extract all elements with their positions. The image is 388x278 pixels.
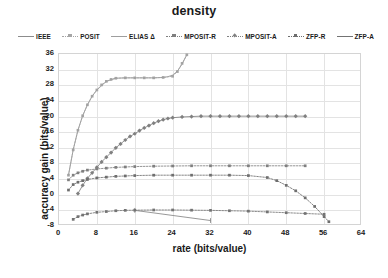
- data-point-marker: [86, 178, 89, 181]
- data-point-marker: [67, 189, 70, 192]
- data-point-marker: [323, 213, 326, 216]
- x-tick-label: 40: [232, 228, 262, 237]
- data-point-marker: [294, 114, 298, 118]
- y-tick-label: 28: [2, 79, 54, 88]
- x-tick-label: 0: [43, 228, 73, 237]
- legend-item-elias[interactable]: Elias Δ: [111, 33, 155, 40]
- series-zfp-r: [67, 174, 330, 223]
- data-point-marker: [209, 164, 212, 167]
- legend-item-label: MPosit-R: [184, 33, 216, 40]
- legend-swatch-icon: [337, 33, 353, 40]
- data-point-marker: [171, 174, 174, 177]
- data-point-marker: [323, 215, 326, 218]
- legend-swatch-icon: [18, 33, 34, 40]
- data-point-marker: [96, 211, 99, 214]
- data-point-marker: [313, 205, 316, 208]
- data-point-marker: [275, 114, 279, 118]
- data-point-marker: [209, 209, 212, 212]
- x-tick-label: 32: [195, 228, 225, 237]
- data-point-marker: [190, 174, 193, 177]
- data-point-marker: [152, 209, 155, 212]
- data-point-marker: [77, 181, 80, 184]
- data-point-marker: [147, 123, 151, 127]
- legend-item-ieee[interactable]: IEEE: [18, 33, 51, 40]
- data-point-marker: [265, 114, 269, 118]
- data-point-marker: [218, 114, 222, 118]
- data-point-marker: [275, 179, 278, 182]
- data-point-marker: [114, 175, 117, 178]
- data-point-marker: [105, 167, 108, 170]
- data-point-marker: [152, 121, 156, 125]
- legend-item-posit[interactable]: Posit: [62, 33, 100, 40]
- data-point-marker: [266, 176, 269, 179]
- data-point-marker: [237, 114, 241, 118]
- series-line: [68, 55, 186, 175]
- series-mposit-a: [76, 114, 307, 196]
- data-point-marker: [284, 114, 288, 118]
- data-point-marker: [161, 118, 165, 122]
- data-point-marker: [77, 171, 80, 174]
- data-point-marker: [304, 164, 307, 167]
- y-tick-label: 36: [2, 48, 54, 57]
- data-point-marker: [133, 209, 136, 212]
- series-line: [68, 175, 328, 222]
- y-tick-label: 0: [2, 189, 54, 198]
- data-point-marker: [81, 214, 84, 217]
- data-point-marker: [96, 177, 99, 180]
- plot-area: [58, 53, 361, 225]
- data-point-marker: [72, 174, 75, 177]
- data-point-marker: [156, 119, 160, 123]
- x-tick-label: 64: [346, 228, 376, 237]
- legend-item-mposit-a[interactable]: MPosit-A: [227, 33, 277, 40]
- series-elias: [68, 55, 186, 175]
- data-point-marker: [285, 164, 288, 167]
- data-point-marker: [189, 114, 193, 118]
- y-tick-label: 20: [2, 111, 54, 120]
- data-point-marker: [76, 191, 80, 195]
- legend-item-mposit-r[interactable]: MPosit-R: [166, 33, 216, 40]
- data-point-marker: [77, 215, 80, 218]
- series-line: [135, 210, 211, 220]
- data-point-marker: [285, 184, 288, 187]
- data-point-marker: [166, 116, 170, 120]
- data-point-marker: [67, 179, 70, 182]
- data-point-marker: [124, 209, 127, 212]
- series-mposit-r: [67, 164, 306, 181]
- y-tick-label: -4: [2, 204, 54, 213]
- data-point-marker: [304, 212, 307, 215]
- data-point-marker: [171, 116, 175, 120]
- data-point-marker: [247, 210, 250, 213]
- data-point-marker: [228, 209, 231, 212]
- series-line: [68, 55, 186, 175]
- legend-item-zfp-r[interactable]: ZFP-R: [288, 33, 325, 40]
- data-point-marker: [266, 164, 269, 167]
- y-tick-label: 32: [2, 64, 54, 73]
- data-point-marker: [190, 209, 193, 212]
- data-point-marker: [171, 209, 174, 212]
- data-point-marker: [133, 165, 136, 168]
- x-tick-label: 24: [157, 228, 187, 237]
- y-axis-ticks: 36322824201612840-4-8: [0, 53, 54, 225]
- data-point-marker: [152, 165, 155, 168]
- data-point-marker: [152, 174, 155, 177]
- data-point-marker: [285, 211, 288, 214]
- x-axis-label: rate (bits/value): [58, 243, 361, 254]
- data-point-marker: [304, 197, 307, 200]
- chart-root: density IEEEPositElias ΔMPosit-RMPosit-A…: [0, 0, 388, 278]
- legend-item-zfp-a[interactable]: ZFP-A: [337, 33, 374, 40]
- data-point-marker: [142, 126, 146, 130]
- legend-item-label: IEEE: [36, 33, 51, 40]
- data-point-marker: [228, 164, 231, 167]
- x-tick-label: 8: [81, 228, 111, 237]
- data-point-marker: [247, 164, 250, 167]
- legend-swatch-icon: [227, 33, 243, 40]
- series-posit: [67, 53, 188, 176]
- data-point-marker: [294, 189, 297, 192]
- data-point-marker: [228, 174, 231, 177]
- chart-title: density: [0, 4, 388, 18]
- y-tick-label: 4: [2, 173, 54, 182]
- x-tick-label: 56: [308, 228, 338, 237]
- data-point-marker: [208, 114, 212, 118]
- legend-item-label: MPosit-A: [245, 33, 277, 40]
- x-tick-label: 48: [270, 228, 300, 237]
